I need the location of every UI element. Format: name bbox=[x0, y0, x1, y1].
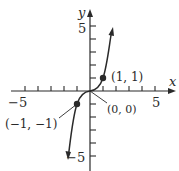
point-neg-label: (−1, −1) bbox=[5, 117, 57, 131]
point-origin-label: (0, 0) bbox=[107, 103, 137, 116]
y-axis-label: y bbox=[77, 5, 86, 20]
cubic-function-graph: y 5 x −5 5 −5 (1, 1) (0, 0) (−1, −1) bbox=[0, 0, 179, 171]
y-axis-arrow-icon bbox=[87, 9, 93, 17]
x-max-label: 5 bbox=[152, 95, 160, 110]
x-min-label: −5 bbox=[8, 95, 27, 110]
x-axis-label: x bbox=[169, 74, 177, 89]
leader-line-origin bbox=[90, 91, 107, 103]
y-min-label: −5 bbox=[66, 150, 85, 165]
y-max-label: 5 bbox=[78, 21, 86, 36]
point-pos-label: (1, 1) bbox=[111, 70, 143, 84]
point-one-marker bbox=[100, 75, 106, 81]
curve-arrow-up-icon bbox=[109, 27, 115, 36]
